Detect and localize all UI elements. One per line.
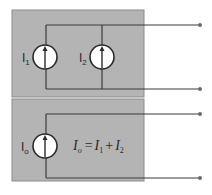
current-source-i1 (33, 45, 57, 69)
terminal-bottom-a (198, 87, 202, 91)
bottom-box-background (12, 99, 144, 181)
terminal-bottom-b (198, 176, 202, 180)
current-source-i2 (90, 45, 114, 69)
parallel-sources-box: I1 I2 (12, 10, 202, 97)
current-source-io (33, 134, 57, 158)
terminal-top-b (198, 112, 202, 116)
terminal-top-a (198, 23, 202, 27)
current-source-diagram: I1 I2 Io Io=I1+I2 (0, 0, 212, 195)
top-box-background (12, 10, 144, 97)
equivalent-source-box: Io Io=I1+I2 (12, 99, 202, 181)
